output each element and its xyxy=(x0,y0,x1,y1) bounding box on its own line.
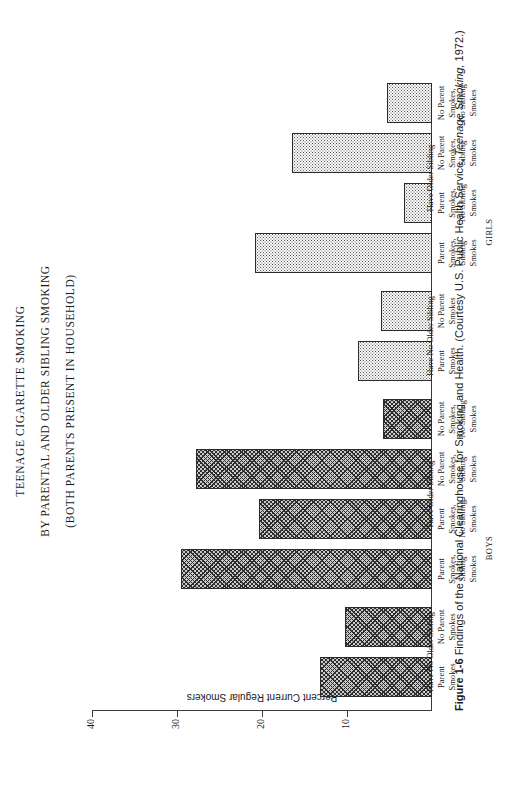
bar-girls-2 xyxy=(255,233,432,273)
y-tick-10 xyxy=(347,711,348,717)
title-line-3: (BOTH PARENTS PRESENT IN HOUSEHOLD) xyxy=(64,81,76,721)
y-axis-title: Percent Current Regular Smokers xyxy=(187,692,338,703)
bar-girls-0 xyxy=(358,341,432,381)
bar-boys-4 xyxy=(196,449,432,489)
figure-stage: TEENAGE CIGARETTE SMOKING BY PARENTAL AN… xyxy=(0,0,526,807)
y-tick-label-40: 40 xyxy=(85,719,96,741)
bar-boys-2 xyxy=(181,549,432,589)
bar-boys-0 xyxy=(320,657,432,697)
y-tick-40 xyxy=(92,711,93,717)
y-tick-label-20: 20 xyxy=(255,719,266,741)
group-label-boys: BOYS xyxy=(484,383,494,713)
caption-tail: 1972.) xyxy=(453,30,465,64)
y-tick-30 xyxy=(177,711,178,717)
title-line-2: BY PARENTAL AND OLDER SIBLING SMOKING xyxy=(39,81,51,721)
caption-text: Findings of the National Clearinghouse f… xyxy=(453,156,465,659)
y-tick-label-10: 10 xyxy=(340,719,351,741)
group-label-girls: GIRLS xyxy=(484,67,494,397)
title-line-1: TEENAGE CIGARETTE SMOKING xyxy=(14,81,26,721)
bar-boys-3 xyxy=(259,499,432,539)
figure-number: Figure 1-6 xyxy=(453,658,465,711)
bar-boys-1 xyxy=(345,607,433,647)
sublabel-girls-have-older-sibling: Have Older Sibling xyxy=(425,67,435,289)
sublabel-boys-have-older-sibling: Have Older Sibling xyxy=(425,383,435,605)
figure-caption: Figure 1-6 Findings of the National Clea… xyxy=(452,21,467,711)
bar-chart-plot: Percent Current Regular Smokers 40 30 20… xyxy=(92,101,432,711)
y-tick-20 xyxy=(262,711,263,717)
caption-italic: Teenage Smoking, xyxy=(453,65,465,156)
sublabel-girls-no-older-sibling: Have No Older Sibling xyxy=(425,275,435,397)
y-tick-label-30: 30 xyxy=(170,719,181,741)
chart-title-block: TEENAGE CIGARETTE SMOKING BY PARENTAL AN… xyxy=(14,81,76,721)
bar-girls-4 xyxy=(292,133,432,173)
sublabel-boys-no-older-sibling: Have No Older Sibling xyxy=(425,591,435,713)
